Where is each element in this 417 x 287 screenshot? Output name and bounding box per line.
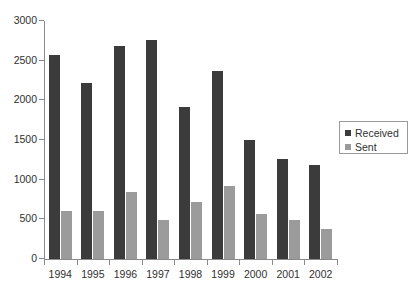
x-axis-tick-label: 1994 [44, 268, 77, 281]
bar-sent-1998 [191, 202, 202, 259]
bar-sent-1999 [224, 186, 235, 259]
legend-label: Sent [355, 140, 377, 154]
y-axis-tick-label: 2500 [14, 54, 37, 67]
y-axis-tick-label: 1000 [14, 173, 37, 186]
bar-received-1997 [146, 40, 157, 259]
legend-swatch-icon [345, 130, 351, 136]
y-axis-tick-label: 500 [19, 212, 37, 225]
x-axis-tick-label: 2002 [304, 268, 337, 281]
x-axis-tick-mark [44, 260, 45, 265]
x-axis-tick-label: 1997 [142, 268, 175, 281]
x-axis-tick-mark [304, 260, 305, 265]
x-axis-tick-mark [272, 260, 273, 265]
x-axis-tick-label: 2001 [272, 268, 305, 281]
bar-received-1996 [114, 46, 125, 259]
y-axis-tick-label: 0 [31, 252, 37, 265]
bar-chart: 050010001500200025003000 199419951996199… [0, 0, 417, 287]
bar-sent-1997 [158, 220, 169, 259]
y-axis-tick-label: 2000 [14, 93, 37, 106]
x-axis-tick-label: 1999 [207, 268, 240, 281]
bar-sent-1994 [61, 211, 72, 259]
legend: ReceivedSent [339, 121, 408, 154]
bar-sent-1996 [126, 192, 137, 259]
bar-sent-2001 [289, 220, 300, 259]
x-axis-tick-mark [207, 260, 208, 265]
plot-area [44, 21, 337, 259]
bar-received-1999 [212, 71, 223, 259]
bar-received-1995 [81, 83, 92, 259]
bar-received-1994 [49, 55, 60, 259]
bar-received-2000 [244, 140, 255, 259]
x-axis-tick-mark [77, 260, 78, 265]
x-axis-tick-mark [142, 260, 143, 265]
x-axis-tick-mark [109, 260, 110, 265]
x-axis-tick-mark [174, 260, 175, 265]
bar-sent-1995 [93, 211, 104, 259]
legend-label: Received [355, 126, 399, 140]
x-axis-tick-label: 1998 [174, 268, 207, 281]
y-axis-tick-label: 1500 [14, 133, 37, 146]
bar-sent-2000 [256, 214, 267, 259]
x-axis-line [44, 259, 338, 260]
y-axis-tick-label: 3000 [14, 14, 37, 27]
x-axis-tick-label: 2000 [239, 268, 272, 281]
x-axis-tick-label: 1996 [109, 268, 142, 281]
x-axis-tick-label: 1995 [77, 268, 110, 281]
bar-received-2002 [309, 165, 320, 259]
legend-swatch-icon [345, 144, 351, 150]
x-axis-tick-mark [337, 260, 338, 265]
bar-received-2001 [277, 159, 288, 259]
x-axis-tick-mark [239, 260, 240, 265]
bar-received-1998 [179, 107, 190, 259]
bar-sent-2002 [321, 229, 332, 259]
